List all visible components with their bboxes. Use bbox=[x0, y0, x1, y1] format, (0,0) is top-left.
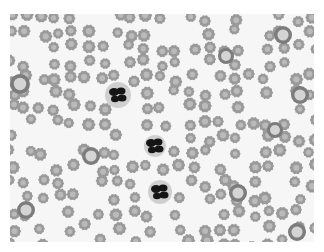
red-blood-cell bbox=[100, 58, 111, 69]
red-blood-cell bbox=[185, 175, 198, 187]
red-blood-cell bbox=[243, 68, 256, 80]
red-blood-cell bbox=[10, 144, 14, 156]
red-blood-cell bbox=[185, 133, 196, 144]
red-blood-cell bbox=[124, 56, 137, 68]
red-blood-cell bbox=[10, 225, 21, 238]
red-blood-cell bbox=[198, 115, 212, 128]
red-blood-cell bbox=[204, 41, 217, 53]
red-blood-cell bbox=[96, 72, 109, 84]
red-blood-cell bbox=[232, 205, 245, 218]
red-blood-cell bbox=[169, 210, 180, 221]
red-blood-cell bbox=[99, 118, 112, 131]
neutrophil bbox=[105, 82, 131, 108]
red-blood-cell bbox=[140, 160, 151, 171]
red-blood-cell bbox=[96, 175, 109, 187]
nucleus-lobe bbox=[111, 96, 119, 102]
red-blood-cell bbox=[228, 73, 241, 85]
red-blood-cell bbox=[65, 38, 78, 51]
red-blood-cell bbox=[229, 239, 241, 242]
red-blood-cell bbox=[113, 222, 127, 235]
spherocyte-cell bbox=[267, 122, 283, 138]
spherocyte-cell bbox=[10, 74, 30, 94]
red-blood-cell bbox=[137, 29, 151, 42]
red-blood-cell bbox=[64, 71, 77, 83]
red-blood-cell bbox=[85, 100, 97, 111]
red-blood-cell bbox=[295, 194, 306, 205]
red-blood-cell bbox=[138, 14, 152, 22]
red-blood-cell bbox=[175, 225, 186, 236]
red-blood-cell bbox=[215, 189, 227, 200]
red-blood-cell bbox=[78, 218, 91, 230]
red-blood-cell bbox=[279, 57, 290, 68]
red-blood-cell bbox=[63, 14, 76, 24]
red-blood-cell bbox=[189, 44, 201, 56]
red-blood-cell bbox=[65, 25, 77, 37]
nucleus-lobe bbox=[148, 147, 156, 153]
red-blood-cell bbox=[53, 28, 64, 39]
red-blood-cell bbox=[273, 144, 287, 157]
red-blood-cell bbox=[112, 27, 123, 38]
red-blood-cell bbox=[154, 14, 166, 24]
red-blood-cell bbox=[126, 160, 140, 173]
red-blood-cell bbox=[10, 55, 16, 67]
red-blood-cell bbox=[214, 70, 227, 82]
red-blood-cell bbox=[198, 99, 212, 112]
spherocyte-cell bbox=[82, 147, 100, 165]
red-blood-cell bbox=[124, 179, 136, 190]
red-blood-cell bbox=[172, 159, 186, 172]
nucleus-lobe bbox=[153, 193, 161, 199]
red-blood-cell bbox=[173, 192, 185, 203]
red-blood-cell bbox=[157, 61, 168, 72]
red-blood-cell bbox=[34, 223, 45, 234]
red-blood-cell bbox=[123, 14, 136, 23]
nucleus-lobe bbox=[118, 94, 127, 101]
red-blood-cell bbox=[168, 146, 180, 158]
red-blood-cell bbox=[112, 175, 124, 186]
red-blood-cell bbox=[144, 226, 156, 238]
red-blood-cell bbox=[67, 159, 80, 172]
spherocyte-cell bbox=[229, 184, 247, 202]
red-blood-cell bbox=[182, 234, 196, 242]
red-blood-cell bbox=[183, 86, 194, 97]
red-blood-cell bbox=[47, 104, 59, 116]
red-blood-cell bbox=[52, 177, 64, 189]
red-blood-cell bbox=[108, 149, 120, 160]
red-blood-cell bbox=[261, 43, 273, 55]
red-blood-cell bbox=[156, 45, 169, 57]
red-blood-cell bbox=[38, 174, 50, 185]
red-blood-cell bbox=[39, 30, 53, 43]
red-blood-cell bbox=[186, 69, 198, 81]
red-blood-cell bbox=[212, 116, 224, 127]
red-blood-cell bbox=[260, 86, 274, 99]
red-blood-cell bbox=[202, 28, 216, 41]
nucleus-lobe bbox=[160, 191, 169, 198]
spherocyte-cell bbox=[274, 26, 292, 44]
red-blood-cell bbox=[262, 160, 274, 172]
red-blood-cell bbox=[94, 233, 106, 242]
red-blood-cell bbox=[108, 194, 121, 206]
red-blood-cell bbox=[289, 161, 303, 174]
red-blood-cell bbox=[142, 103, 154, 114]
red-blood-cell bbox=[294, 104, 305, 115]
red-blood-cell bbox=[82, 25, 96, 38]
red-blood-cell bbox=[230, 85, 243, 98]
red-blood-cell bbox=[64, 226, 76, 237]
red-blood-cell bbox=[199, 181, 211, 193]
red-blood-cell bbox=[276, 234, 287, 242]
red-blood-cell bbox=[109, 165, 120, 176]
red-blood-cell bbox=[263, 205, 275, 216]
red-blood-cell bbox=[292, 16, 304, 27]
red-blood-cell bbox=[169, 57, 180, 68]
red-blood-cell bbox=[153, 102, 165, 114]
red-blood-cell bbox=[303, 147, 314, 158]
micrograph-canvas bbox=[10, 14, 314, 242]
red-blood-cell bbox=[47, 73, 61, 86]
red-blood-cell bbox=[303, 25, 314, 38]
red-blood-cell bbox=[204, 53, 217, 65]
red-blood-cell bbox=[213, 224, 226, 236]
red-blood-cell bbox=[140, 68, 154, 81]
red-blood-cell bbox=[289, 176, 301, 187]
red-blood-cell bbox=[22, 191, 33, 202]
red-blood-cell bbox=[26, 114, 37, 125]
spherocyte-cell bbox=[218, 48, 234, 64]
